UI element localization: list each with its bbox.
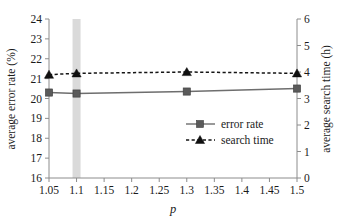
- y-axis-right-title: average search time (h): [320, 45, 333, 153]
- y-axis-left-tick-label: 24: [31, 13, 43, 25]
- y-axis-right-tick-label: 6: [304, 13, 310, 25]
- y-axis-left-tick-label: 16: [31, 172, 43, 184]
- x-axis-title: p: [169, 202, 176, 216]
- x-axis-tick-label: 1.5: [290, 184, 305, 196]
- y-axis-left-tick-label: 20: [31, 93, 43, 105]
- y-axis-right-tick-label: 0: [304, 172, 310, 184]
- x-axis-tick-label: 1.05: [39, 184, 59, 196]
- legend-label-search-time: search time: [221, 134, 274, 146]
- y-axis-left-tick-label: 21: [31, 73, 43, 85]
- chart-figure: 161718192021222324 0123456 1.051.11.151.…: [0, 0, 338, 224]
- legend-marker-error-rate: [197, 121, 204, 128]
- y-axis-left-tick-label: 22: [31, 53, 43, 65]
- x-axis-tick-label: 1.1: [69, 184, 84, 196]
- y-axis-right-ticks: 0123456: [297, 13, 310, 184]
- x-axis-tick-label: 1.4: [235, 184, 250, 196]
- line-chart: 161718192021222324 0123456 1.051.11.151.…: [0, 0, 338, 224]
- x-axis-tick-label: 1.2: [124, 184, 139, 196]
- data-point-error-rate: [293, 85, 300, 92]
- x-axis-tick-label: 1.35: [204, 184, 224, 196]
- x-axis-ticks: 1.051.11.151.21.251.31.351.41.451.5: [39, 178, 305, 196]
- data-point-error-rate: [73, 90, 80, 97]
- plot-area-background: [49, 19, 297, 178]
- data-point-error-rate: [45, 89, 52, 96]
- y-axis-left-tick-label: 23: [31, 33, 43, 45]
- y-axis-right-tick-label: 5: [304, 40, 310, 52]
- highlight-bands: [73, 19, 81, 178]
- y-axis-right-tick-label: 3: [304, 93, 310, 105]
- x-axis-tick-label: 1.15: [94, 184, 114, 196]
- y-axis-left-ticks: 161718192021222324: [31, 13, 50, 184]
- y-axis-left-title: average error rate (%): [5, 48, 18, 149]
- y-axis-right-tick-label: 4: [304, 66, 310, 78]
- y-axis-left-tick-label: 18: [31, 132, 43, 144]
- y-axis-right-tick-label: 2: [304, 119, 310, 131]
- y-axis-left-tick-label: 19: [31, 112, 43, 124]
- x-axis-tick-label: 1.3: [180, 184, 195, 196]
- highlight-band-p-1.1: [73, 19, 81, 178]
- y-axis-left-tick-label: 17: [31, 152, 43, 164]
- legend-label-error-rate: error rate: [221, 118, 263, 130]
- x-axis-tick-label: 1.45: [259, 184, 279, 196]
- x-axis-tick-label: 1.25: [149, 184, 169, 196]
- data-point-error-rate: [183, 88, 190, 95]
- y-axis-right-tick-label: 1: [304, 146, 310, 158]
